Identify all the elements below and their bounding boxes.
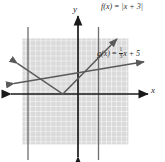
- y-axis-label: y: [73, 5, 77, 14]
- function-label-g-tail: x + 5: [123, 49, 140, 58]
- function-label-f-expression: = |x + 3|: [112, 2, 143, 11]
- x-axis-label: x: [151, 86, 155, 95]
- function-label-f: f(x) = |x + 3|: [101, 3, 143, 11]
- function-label-g-equals: =: [110, 49, 119, 58]
- graph-canvas: [0, 0, 165, 162]
- function-label-f-name: f(x): [101, 2, 112, 11]
- function-label-g-name: g(x): [97, 49, 110, 58]
- function-label-g: g(x) = 13x + 5: [97, 47, 140, 60]
- absolute-value-and-line-graph-figure: y x f(x) = |x + 3| g(x) = 13x + 5: [0, 0, 165, 162]
